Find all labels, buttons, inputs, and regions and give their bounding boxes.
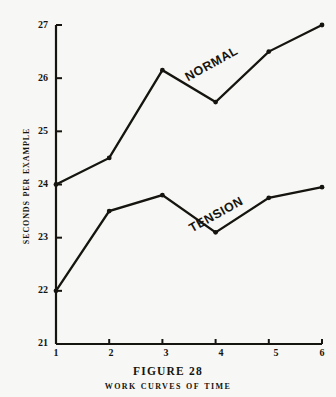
y-tick-label-25: 25 <box>26 125 48 136</box>
x-tick-label-3: 3 <box>159 347 173 358</box>
y-tick-label-22: 22 <box>26 284 48 295</box>
figure-28: Seconds per Example 27 26 25 24 23 22 21… <box>0 0 336 397</box>
x-tick-label-4: 4 <box>214 347 228 358</box>
y-tick-label-26: 26 <box>26 72 48 83</box>
series-markers-tension <box>54 185 325 293</box>
figure-caption-number: FIGURE 28 <box>0 364 336 378</box>
x-tick-label-2: 2 <box>104 347 118 358</box>
series-markers-normal <box>54 23 325 187</box>
x-tick-label-6: 6 <box>315 347 329 358</box>
figure-caption-title: Work Curves of Time <box>0 378 336 393</box>
y-tick-label-24: 24 <box>26 178 48 189</box>
x-tick-label-1: 1 <box>49 347 63 358</box>
plot-area: Seconds per Example 27 26 25 24 23 22 21… <box>0 0 336 360</box>
y-tick-label-21: 21 <box>26 337 48 348</box>
work-curves-chart <box>0 0 336 360</box>
y-tick-label-27: 27 <box>26 19 48 30</box>
series-line-tension <box>56 187 322 291</box>
figure-caption: FIGURE 28 Work Curves of Time <box>0 364 336 393</box>
y-tick-label-23: 23 <box>26 231 48 242</box>
series-line-normal <box>56 25 322 185</box>
x-tick-label-5: 5 <box>269 347 283 358</box>
